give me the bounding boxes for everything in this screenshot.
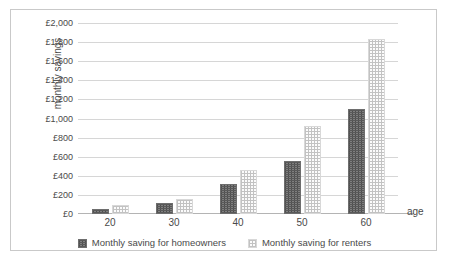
y-axis-tick-label: £1,000: [45, 114, 73, 123]
bar-renters[interactable]: [176, 199, 193, 214]
chart-legend: Monthly saving for homeownersMonthly sav…: [11, 238, 438, 248]
y-axis-tick-label: £1,400: [45, 76, 73, 85]
legend-label: Monthly saving for renters: [262, 238, 371, 248]
y-axis-tick-label: £1,600: [45, 57, 73, 66]
y-axis-tick-label: £0: [63, 210, 73, 219]
legend-item[interactable]: Monthly saving for homeowners: [78, 238, 226, 248]
bar-group: [78, 23, 142, 214]
legend-swatch-renters: [248, 239, 257, 248]
bar-renters[interactable]: [304, 126, 321, 214]
bar-group: [142, 23, 206, 214]
y-axis-tick-label: £2,000: [45, 19, 73, 28]
x-axis-tick-label: 60: [360, 217, 371, 229]
legend-label: Monthly saving for homeowners: [92, 238, 226, 248]
y-axis-tick-label: £200: [53, 190, 73, 199]
bar-homeowners[interactable]: [220, 184, 237, 214]
bar-renters[interactable]: [240, 170, 257, 214]
bar-homeowners[interactable]: [348, 109, 365, 214]
bar-homeowners[interactable]: [284, 161, 301, 214]
y-axis-tick-label: £600: [53, 152, 73, 161]
y-axis-tick-label: £800: [53, 133, 73, 142]
x-axis-tick-label: 30: [168, 217, 179, 229]
bar-renters[interactable]: [112, 205, 129, 214]
chart-frame: monthly savings £2,000£1,800£1,600£1,400…: [10, 9, 437, 251]
bar-renters[interactable]: [368, 39, 385, 214]
y-axis-tick-labels: £2,000£1,800£1,600£1,400£1,200£1,000£800…: [25, 23, 77, 214]
bar-group: [270, 23, 334, 214]
y-axis-tick-label: £1,800: [45, 38, 73, 47]
bar-group: [206, 23, 270, 214]
bars-layer: [78, 23, 398, 214]
legend-item[interactable]: Monthly saving for renters: [248, 238, 371, 248]
bar-group: [334, 23, 398, 214]
x-axis-tick-labels: 2030405060: [78, 217, 398, 231]
y-axis-tick-label: £400: [53, 171, 73, 180]
x-axis-tick-label: 40: [232, 217, 243, 229]
x-axis-tick-label: 50: [296, 217, 307, 229]
bar-homeowners[interactable]: [156, 203, 173, 214]
legend-swatch-homeowners: [78, 239, 87, 248]
x-axis-tick-label: 20: [104, 217, 115, 229]
y-axis-tick-label: £1,200: [45, 95, 73, 104]
bar-homeowners[interactable]: [92, 209, 109, 214]
x-axis-title: age: [407, 206, 424, 217]
